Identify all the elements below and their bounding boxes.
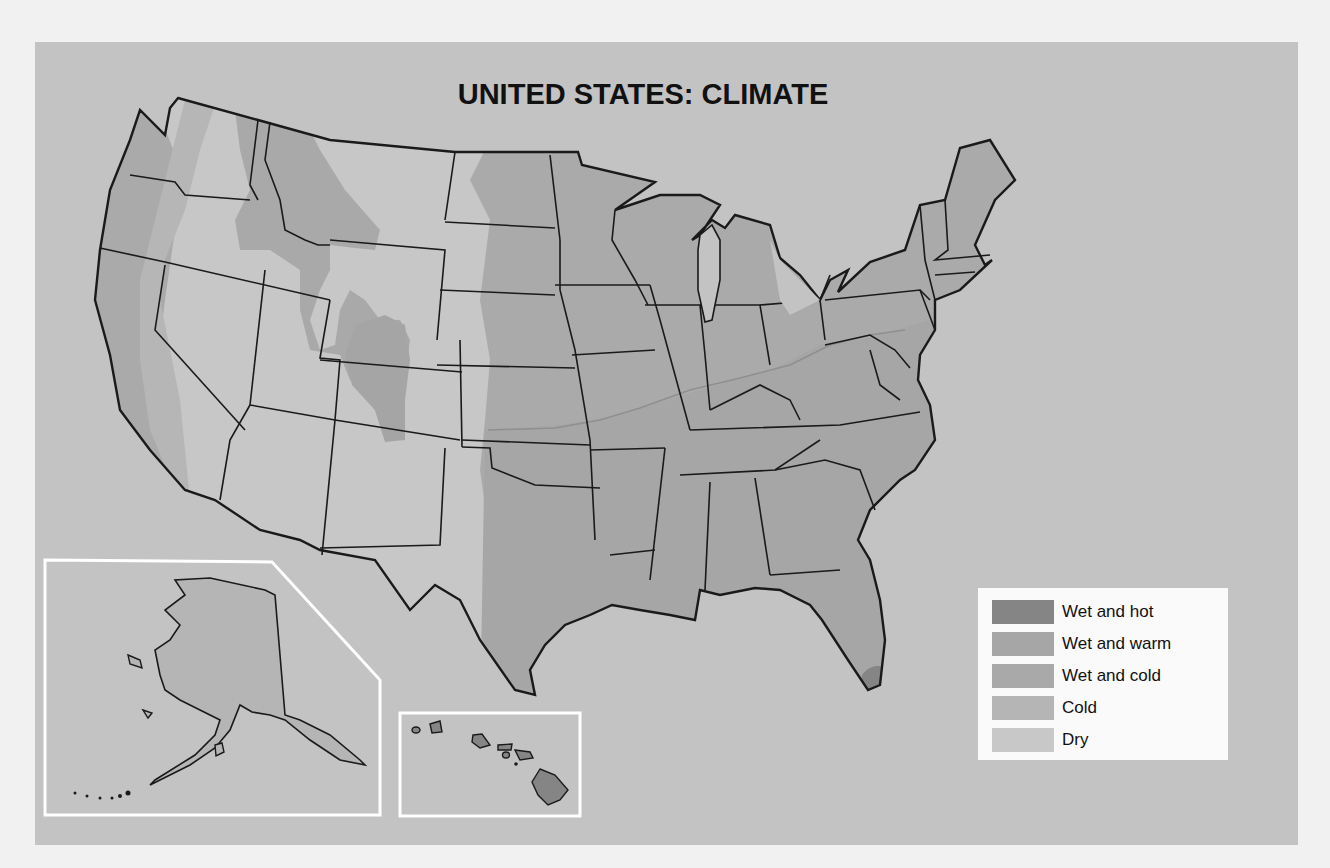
legend: Wet and hot Wet and warm Wet and cold Co… xyxy=(978,588,1228,760)
legend-item-cold: Cold xyxy=(992,692,1214,724)
swatch-wet-and-cold xyxy=(992,664,1054,688)
legend-label: Dry xyxy=(1062,730,1088,750)
legend-item-wet-and-warm: Wet and warm xyxy=(992,628,1214,660)
map-title: UNITED STATES: CLIMATE xyxy=(0,78,1286,111)
swatch-cold xyxy=(992,696,1054,720)
swatch-dry xyxy=(992,728,1054,752)
legend-item-wet-and-cold: Wet and cold xyxy=(992,660,1214,692)
legend-label: Wet and warm xyxy=(1062,634,1171,654)
swatch-wet-and-hot xyxy=(992,600,1054,624)
legend-label: Wet and cold xyxy=(1062,666,1161,686)
legend-item-dry: Dry xyxy=(992,724,1214,756)
hawaii-inset xyxy=(400,713,580,816)
legend-label: Wet and hot xyxy=(1062,602,1153,622)
alaska-land xyxy=(150,578,365,785)
alaska-inset xyxy=(45,560,380,815)
legend-label: Cold xyxy=(1062,698,1097,718)
legend-item-wet-and-hot: Wet and hot xyxy=(992,596,1214,628)
swatch-wet-and-warm xyxy=(992,632,1054,656)
